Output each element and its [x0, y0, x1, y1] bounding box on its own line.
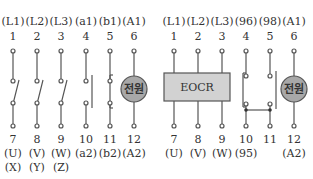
eocr-bottom-number-8: 8	[195, 133, 202, 146]
eocr-bottom-label-7: (U)	[165, 147, 183, 160]
mc-bottom-label-11: (b2)	[99, 147, 122, 160]
mc-top-number-1: 1	[10, 30, 17, 43]
mc-top-number-3: 3	[58, 30, 65, 43]
mc-bottom-label2-8: (Y)	[29, 161, 45, 174]
mc-bottom-label-12: (A2)	[122, 147, 146, 160]
eocr-top-label-6: (A1)	[282, 15, 306, 28]
terminal-diagram: (L1) (L2) (L3) (a1) (b1) (A1) 1 2 3 4 5 …	[0, 0, 313, 179]
eocr-common-jumper	[244, 108, 272, 112]
mc-bottom-label-9: (W)	[51, 147, 71, 160]
eocr-top-number-6: 6	[291, 30, 298, 43]
mc-diagram: (L1) (L2) (L3) (a1) (b1) (A1) 1 2 3 4 5 …	[2, 15, 147, 174]
eocr-top-label-2: (L2)	[187, 15, 210, 28]
mc-bottom-number-7: 7	[10, 133, 17, 146]
eocr-main-block: EOCR	[164, 49, 230, 128]
mc-top-number-5: 5	[107, 30, 114, 43]
mc-bottom-number-9: 9	[58, 133, 65, 146]
mc-top-label-1: (L1)	[2, 15, 25, 28]
eocr-top-label-5: (98)	[259, 15, 282, 28]
mc-coil: 전원	[121, 49, 147, 128]
mc-bottom-number-10: 10	[79, 133, 93, 146]
eocr-top-label-4: (96)	[235, 15, 258, 28]
mc-bottom-label2-7: (X)	[5, 161, 21, 174]
eocr-top-number-3: 3	[219, 30, 226, 43]
eocr-no-contact-95-98	[268, 49, 276, 128]
eocr-power: 전원	[281, 49, 307, 128]
mc-main-contacts	[11, 49, 67, 128]
mc-coil-label: 전원	[124, 82, 144, 96]
mc-top-number-6: 6	[131, 30, 138, 43]
mc-aux-b-contact	[108, 49, 113, 128]
eocr-bottom-number-9: 9	[219, 133, 226, 146]
mc-top-label-5: (b1)	[99, 15, 122, 28]
eocr-top-number-4: 4	[243, 30, 250, 43]
eocr-bottom-label-12: (A2)	[282, 147, 306, 160]
eocr-top-number-5: 5	[267, 30, 274, 43]
mc-top-label-4: (a1)	[75, 15, 97, 28]
mc-bottom-label2-9: (Z)	[53, 161, 69, 174]
eocr-bottom-number-7: 7	[171, 133, 178, 146]
eocr-top-label-1: (L1)	[163, 15, 186, 28]
eocr-bottom-label-8: (V)	[190, 147, 207, 160]
mc-bottom-number-12: 12	[127, 133, 141, 146]
eocr-power-label: 전원	[284, 82, 304, 96]
mc-bottom-label-10: (a2)	[75, 147, 97, 160]
mc-bottom-label-8: (V)	[29, 147, 46, 160]
mc-top-number-2: 2	[34, 30, 41, 43]
mc-top-number-4: 4	[83, 30, 90, 43]
eocr-top-number-2: 2	[195, 30, 202, 43]
eocr-top-label-3: (L3)	[211, 15, 234, 28]
eocr-nc-contact-95-96	[243, 49, 248, 128]
eocr-bottom-number-11: 11	[263, 133, 277, 146]
eocr-diagram: (L1) (L2) (L3) (96) (98) (A1) 1 2 3 4 5 …	[163, 15, 307, 160]
eocr-bottom-number-10: 10	[239, 133, 253, 146]
eocr-top-number-1: 1	[171, 30, 178, 43]
mc-top-label-3: (L3)	[50, 15, 73, 28]
mc-bottom-number-11: 11	[103, 133, 117, 146]
eocr-bottom-number-12: 12	[287, 133, 301, 146]
eocr-bottom-label-9: (W)	[212, 147, 232, 160]
mc-aux-a-contact	[84, 49, 92, 128]
mc-top-label-6: (A1)	[122, 15, 146, 28]
mc-bottom-label-7: (U)	[4, 147, 22, 160]
mc-top-label-2: (L2)	[26, 15, 49, 28]
eocr-bottom-label-10: (95)	[235, 147, 258, 160]
mc-bottom-number-8: 8	[34, 133, 41, 146]
eocr-box-label: EOCR	[180, 81, 214, 94]
